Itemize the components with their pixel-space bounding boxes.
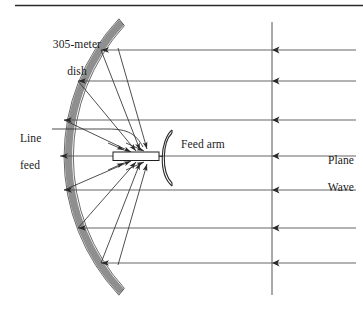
line-feed-element xyxy=(113,152,159,161)
plane-wave-label-line1: Plane xyxy=(328,154,354,166)
reflected-ray-3 xyxy=(64,120,131,152)
wavefront-arrowheads xyxy=(272,47,280,267)
feed-arrow-c xyxy=(108,143,124,150)
line-feed-label-line2: feed xyxy=(20,159,40,171)
feed-arrow-d xyxy=(108,163,124,170)
reflected-ray-7b xyxy=(118,164,147,265)
label-305-meter-dish: 305-meter dish xyxy=(30,24,112,92)
plane-wave-label-line2: Wave xyxy=(328,181,354,193)
label-plane-wave: Plane Wave xyxy=(316,140,362,208)
reflected-ray-1b xyxy=(118,48,147,149)
figure-container: 305-meter dish Line feed Feed arm Plane … xyxy=(0,0,363,309)
dish-label-line1: 305-meter xyxy=(53,38,101,50)
label-feed-arm: Feed arm xyxy=(181,138,225,152)
label-line-feed: Line feed xyxy=(8,118,64,186)
dish-label-line2: dish xyxy=(67,65,87,77)
line-feed-label-line1: Line xyxy=(20,132,41,144)
feed-arm-element xyxy=(159,130,172,186)
reflected-ray-7 xyxy=(101,163,140,263)
